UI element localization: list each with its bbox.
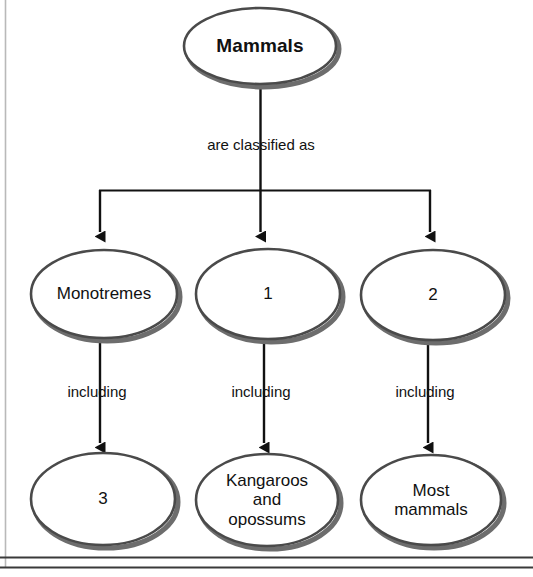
oval-group	[31, 8, 508, 549]
edge-label-including-left: including	[57, 383, 137, 400]
oval-mammals	[184, 8, 336, 84]
edge-label-are-classified-as: are classified as	[196, 136, 326, 153]
diagram-graphics	[0, 0, 533, 577]
edge-label-including-middle: including	[221, 383, 301, 400]
oval-kangaroos-opossums	[196, 454, 338, 546]
edge-label-including-right: including	[385, 383, 465, 400]
oval-monotremes	[31, 250, 177, 338]
oval-blank-3	[31, 453, 175, 545]
oval-blank-2	[361, 250, 505, 340]
diagram-canvas: Mammals are classified as Monotremes 1 2…	[0, 0, 533, 577]
oval-blank-1	[196, 249, 340, 339]
oval-most-mammals	[361, 455, 501, 545]
